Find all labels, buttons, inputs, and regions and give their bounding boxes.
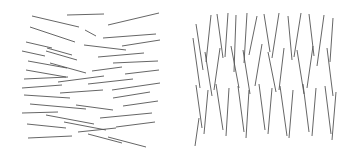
figure-background [0, 0, 349, 158]
stimulus-canvas [0, 0, 349, 158]
line-orientation-stimulus [0, 0, 349, 158]
